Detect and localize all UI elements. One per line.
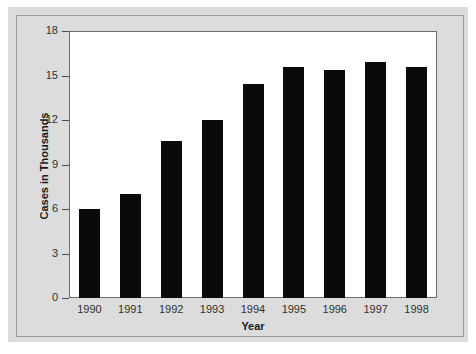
- x-tick-label-1991: 1991: [107, 303, 153, 315]
- y-axis-title-holder: Cases in Thousands: [22, 10, 38, 310]
- bar-1990: [79, 209, 100, 298]
- bar-1998: [406, 67, 427, 298]
- x-tick-label-1993: 1993: [189, 303, 235, 315]
- chart-figure: 0369121518 19901991199219931994199519961…: [0, 0, 476, 354]
- x-tick-label-1992: 1992: [148, 303, 194, 315]
- bar-1994: [243, 84, 264, 298]
- x-tick-label-1997: 1997: [353, 303, 399, 315]
- bar-series-layer: [69, 31, 437, 298]
- bar-1992: [161, 141, 182, 298]
- y-tick-18: [62, 31, 69, 32]
- y-tick-0: [62, 298, 69, 299]
- y-tick-9: [62, 165, 69, 166]
- bar-1993: [202, 120, 223, 298]
- y-tick-6: [62, 209, 69, 210]
- bar-1991: [120, 194, 141, 298]
- y-axis-title: Cases in Thousands: [38, 86, 50, 246]
- x-tick-label-1996: 1996: [312, 303, 358, 315]
- bar-1997: [365, 62, 386, 298]
- y-tick-3: [62, 254, 69, 255]
- x-tick-label-1995: 1995: [271, 303, 317, 315]
- x-tick-label-1998: 1998: [394, 303, 440, 315]
- x-tick-label-1990: 1990: [66, 303, 112, 315]
- bar-1996: [324, 70, 345, 298]
- y-tick-15: [62, 76, 69, 77]
- y-tick-12: [62, 120, 69, 121]
- bar-1995: [283, 67, 304, 298]
- x-tick-label-1994: 1994: [230, 303, 276, 315]
- x-axis-title: Year: [69, 320, 437, 332]
